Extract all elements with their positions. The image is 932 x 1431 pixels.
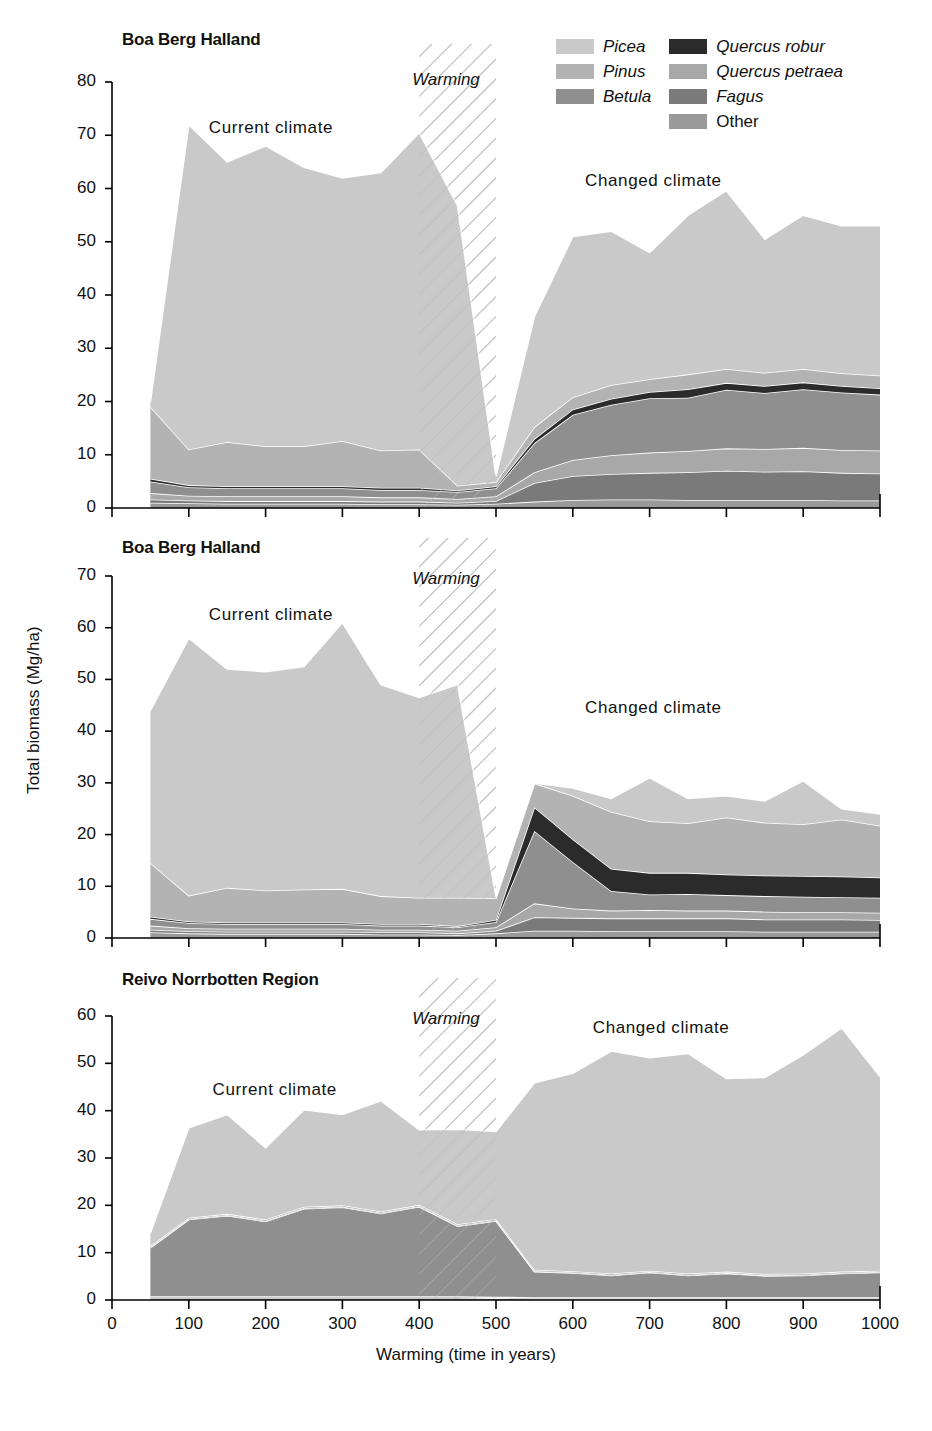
chart-title: Reivo Norrbotten Region — [122, 970, 319, 990]
y-tick-label: 20 — [44, 824, 96, 844]
y-tick-label: 50 — [44, 1052, 96, 1072]
x-tick-label: 600 — [533, 1314, 613, 1334]
x-axis-title: Warming (time in years) — [0, 1345, 932, 1365]
y-tick-label: 60 — [44, 178, 96, 198]
x-tick-label: 0 — [72, 1314, 152, 1334]
y-tick-label: 60 — [44, 617, 96, 637]
chart-panel-1: 01020304050607080Boa Berg HallandCurrent… — [0, 0, 932, 530]
climate-annotation: Current climate — [209, 605, 333, 625]
y-tick-label: 20 — [44, 391, 96, 411]
climate-annotation: Changed climate — [593, 1018, 730, 1038]
stacked-areas — [150, 125, 880, 508]
y-tick-label: 40 — [44, 1100, 96, 1120]
y-tick-label: 70 — [44, 565, 96, 585]
y-tick-label: 0 — [44, 1289, 96, 1309]
y-tick-label: 0 — [44, 497, 96, 517]
chart-panel-2 — [0, 530, 932, 960]
x-tick-label: 700 — [610, 1314, 690, 1334]
chart-panel-2: 010203040506070Boa Berg HallandCurrent c… — [0, 530, 932, 960]
y-tick-label: 40 — [44, 720, 96, 740]
warming-band-overlay — [419, 44, 496, 508]
x-tick-label: 800 — [686, 1314, 766, 1334]
y-tick-label: 50 — [44, 668, 96, 688]
warming-annotation: Warming — [412, 70, 480, 90]
climate-annotation: Changed climate — [585, 698, 722, 718]
figure-root: Total biomass (Mg/ha) PiceaPinusBetulaQu… — [0, 0, 932, 1431]
y-tick-label: 30 — [44, 337, 96, 357]
x-tick-label: 900 — [763, 1314, 843, 1334]
x-tick-label: 400 — [379, 1314, 459, 1334]
warming-band-overlay — [419, 538, 496, 938]
stacked-areas — [150, 1028, 880, 1300]
climate-annotation: Current climate — [213, 1080, 337, 1100]
y-tick-label: 80 — [44, 71, 96, 91]
y-tick-label: 30 — [44, 772, 96, 792]
y-tick-label: 40 — [44, 284, 96, 304]
climate-annotation: Current climate — [209, 118, 333, 138]
y-tick-label: 20 — [44, 1194, 96, 1214]
chart-panel-3: 0102030405060010020030040050060070080090… — [0, 960, 932, 1360]
y-tick-label: 0 — [44, 927, 96, 947]
y-tick-label: 10 — [44, 444, 96, 464]
y-tick-label: 10 — [44, 1242, 96, 1262]
y-tick-label: 30 — [44, 1147, 96, 1167]
x-tick-label: 200 — [226, 1314, 306, 1334]
warming-annotation: Warming — [412, 1009, 480, 1029]
y-tick-label: 60 — [44, 1005, 96, 1025]
chart-title: Boa Berg Halland — [122, 30, 261, 50]
x-tick-label: 300 — [302, 1314, 382, 1334]
x-tick-label: 1000 — [840, 1314, 920, 1334]
y-tick-label: 50 — [44, 231, 96, 251]
warming-annotation: Warming — [412, 569, 480, 589]
climate-annotation: Changed climate — [585, 171, 722, 191]
stacked-areas — [150, 623, 880, 938]
chart-title: Boa Berg Halland — [122, 538, 261, 558]
x-tick-label: 100 — [149, 1314, 229, 1334]
y-tick-label: 70 — [44, 124, 96, 144]
y-tick-label: 10 — [44, 875, 96, 895]
x-tick-label: 500 — [456, 1314, 536, 1334]
